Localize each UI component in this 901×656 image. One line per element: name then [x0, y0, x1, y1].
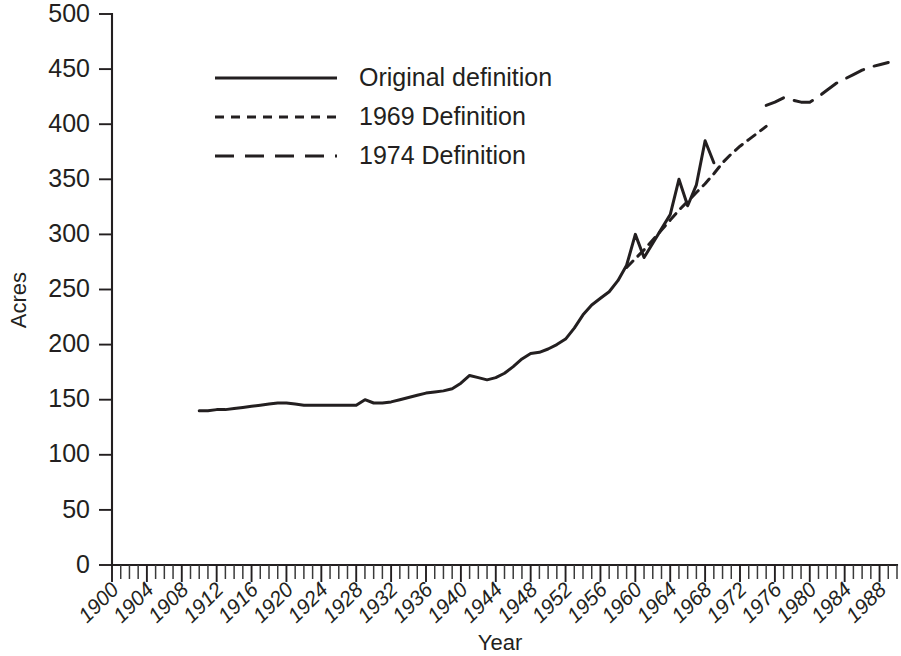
x-axis-tick-labels: 1900190419081912191619201924192819321936… — [74, 577, 891, 627]
y-tick-label: 350 — [48, 164, 90, 192]
y-tick-label: 200 — [48, 329, 90, 357]
y-tick-label: 50 — [62, 495, 90, 523]
x-axis-title: Year — [478, 630, 522, 655]
series-line-original-definition — [199, 141, 714, 411]
y-axis-tick-labels: 050100150200250300350400450500 — [48, 0, 90, 578]
y-axis-ticks — [99, 14, 112, 565]
legend-label: 1974 Definition — [359, 141, 526, 169]
x-axis-ticks — [112, 565, 880, 582]
chart-container: 050100150200250300350400450500 190019041… — [0, 0, 901, 656]
chart-legend: Original definition1969 Definition1974 D… — [215, 63, 552, 169]
y-tick-label: 450 — [48, 54, 90, 82]
y-tick-label: 500 — [48, 0, 90, 27]
series-line-1974-definition — [766, 62, 888, 105]
y-tick-label: 150 — [48, 384, 90, 412]
legend-label: 1969 Definition — [359, 102, 526, 130]
y-tick-label: 300 — [48, 219, 90, 247]
y-tick-label: 0 — [76, 550, 90, 578]
y-tick-label: 250 — [48, 274, 90, 302]
x-axis-minor-ticks — [121, 565, 897, 579]
y-axis-title: Acres — [6, 272, 31, 328]
x-tick-label: 1988 — [841, 577, 891, 627]
legend-label: Original definition — [359, 63, 552, 91]
series-line-1969-definition — [627, 126, 767, 267]
plot-axes — [112, 14, 897, 565]
y-tick-label: 100 — [48, 439, 90, 467]
y-tick-label: 400 — [48, 109, 90, 137]
data-series-group — [199, 62, 888, 410]
line-chart-figure: 050100150200250300350400450500 190019041… — [0, 0, 901, 656]
